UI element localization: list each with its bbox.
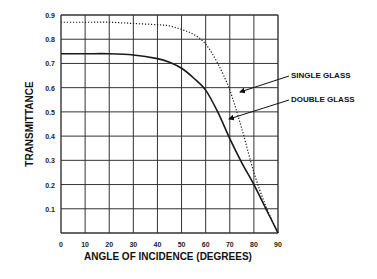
x-tick-label: 70 <box>226 241 234 248</box>
y-axis-ticks: 0.10.20.30.40.50.60.70.80.9 <box>45 12 55 213</box>
legend-double-glass: DOUBLE GLASS <box>291 95 355 104</box>
y-tick-label: 0.6 <box>45 85 55 92</box>
y-tick-label: 0.8 <box>45 36 55 43</box>
y-tick-label: 0.4 <box>45 133 55 140</box>
transmittance-chart: 0.10.20.30.40.50.60.70.80.9 010203040506… <box>0 0 377 279</box>
x-tick-label: 10 <box>81 241 89 248</box>
legend-single-glass: SINGLE GLASS <box>291 71 351 80</box>
y-tick-label: 0.1 <box>45 206 55 213</box>
x-tick-label: 0 <box>59 241 63 248</box>
single-glass-arrow <box>240 76 289 92</box>
double-glass-line <box>61 54 278 233</box>
x-axis-label: ANGLE OF INCIDENCE (DEGREES) <box>84 251 252 262</box>
x-tick-label: 50 <box>178 241 186 248</box>
x-axis-ticks: 0102030405060708090 <box>59 241 282 248</box>
y-axis-label: TRANSMITTANCE <box>24 81 35 167</box>
x-tick-label: 30 <box>129 241 137 248</box>
y-tick-label: 0.2 <box>45 182 55 189</box>
y-tick-label: 0.3 <box>45 157 55 164</box>
y-tick-label: 0.7 <box>45 60 55 67</box>
x-tick-label: 90 <box>274 241 282 248</box>
y-tick-label: 0.5 <box>45 109 55 116</box>
x-tick-label: 80 <box>250 241 258 248</box>
y-tick-label: 0.9 <box>45 12 55 19</box>
grid <box>61 15 278 233</box>
x-tick-label: 20 <box>105 241 113 248</box>
x-tick-label: 60 <box>202 241 210 248</box>
x-tick-label: 40 <box>154 241 162 248</box>
series-lines <box>61 22 278 233</box>
double-glass-arrow <box>229 100 289 119</box>
